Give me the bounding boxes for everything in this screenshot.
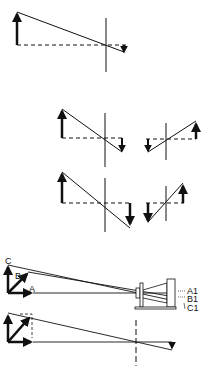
camera-base	[135, 307, 176, 309]
label-c1: C1	[187, 303, 199, 313]
optics-diagram: C B A A1 B1 C1	[0, 0, 211, 366]
label-b: B	[15, 271, 21, 281]
ray	[8, 313, 172, 350]
ray	[62, 172, 130, 228]
panel-row-1-right	[146, 121, 196, 160]
label-c: C	[5, 256, 12, 266]
camera-back	[167, 279, 175, 307]
panel-camera-projection: C B A A1 B1 C1	[5, 256, 199, 313]
ray	[62, 109, 122, 152]
panel-single-object	[17, 12, 128, 72]
panel-row-2-left	[62, 172, 131, 232]
ray	[148, 121, 196, 152]
label-a: A	[29, 284, 35, 294]
panel-vector-projection	[8, 313, 172, 366]
leader-c1	[184, 303, 185, 309]
panel-row-1-left	[62, 109, 125, 167]
vector-diagonal	[8, 318, 29, 342]
panel-row-2-right	[146, 183, 184, 222]
camera-lens	[136, 288, 140, 298]
camera-front-plate	[140, 283, 143, 307]
ray	[17, 12, 124, 52]
